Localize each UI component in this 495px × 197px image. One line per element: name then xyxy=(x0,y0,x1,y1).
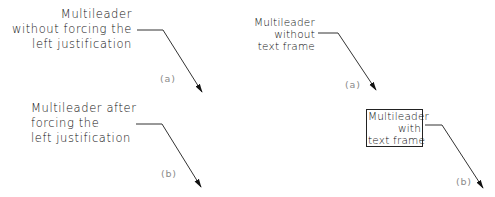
label-right-a: (a) xyxy=(345,79,361,90)
text-line: left justification xyxy=(12,37,132,52)
text-line: without forcing the xyxy=(12,22,132,37)
label-right-b: (b) xyxy=(456,176,472,187)
leader-right-b xyxy=(425,125,483,188)
text-line: Multileader after xyxy=(31,101,137,116)
mtext-right-a: Multileader without text frame xyxy=(254,16,315,52)
text-line: without xyxy=(254,28,315,40)
text-line: text frame xyxy=(368,134,421,146)
text-line: with xyxy=(368,122,421,134)
multileader-diagram: Multileader without forcing the left jus… xyxy=(0,0,495,197)
mtext-left-a: Multileader without forcing the left jus… xyxy=(12,7,132,52)
label-left-b: (b) xyxy=(161,168,177,179)
text-line: Multileader xyxy=(254,16,315,28)
text-line: Multileader xyxy=(12,7,132,22)
text-line: text frame xyxy=(254,40,315,52)
label-left-a: (a) xyxy=(160,73,176,84)
mtext-right-b-framed: Multileader with text frame xyxy=(366,109,423,147)
mtext-left-b: Multileader after forcing the left justi… xyxy=(31,101,137,146)
text-line: forcing the xyxy=(31,116,137,131)
text-line: left justification xyxy=(31,131,137,146)
text-line: Multileader xyxy=(368,110,421,122)
